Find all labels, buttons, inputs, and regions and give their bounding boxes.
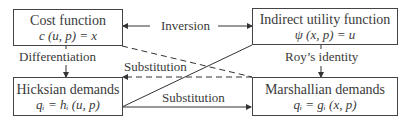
indirect-utility-box: Indirect utility function ψ (x, p) = u xyxy=(252,8,398,45)
marshallian-formula: qᵢ = gᵢ (x, p) xyxy=(293,97,356,112)
inversion-label: Inversion xyxy=(160,19,211,32)
marshallian-demands-box: Marshallian demands qᵢ = gᵢ (x, p) xyxy=(252,77,398,116)
differentiation-label: Differentiation xyxy=(18,50,97,63)
cost-function-box: Cost function c (u, p) = x xyxy=(13,9,123,46)
indirect-utility-title: Indirect utility function xyxy=(260,12,391,27)
substitution-dashed-label: Substitution xyxy=(123,60,188,73)
hicksian-demands-box: Hicksian demands qᵢ = hᵢ (u, p) xyxy=(13,77,123,116)
substitution-solid-label: Substitution xyxy=(161,91,226,104)
marshallian-title: Marshallian demands xyxy=(265,82,385,97)
hicksian-title: Hicksian demands xyxy=(16,82,119,97)
roys-identity-label: Roy’s identity xyxy=(284,50,359,63)
cost-function-title: Cost function xyxy=(30,13,106,28)
hicksian-formula: qᵢ = hᵢ (u, p) xyxy=(36,97,100,112)
cost-function-formula: c (u, p) = x xyxy=(39,28,97,43)
indirect-utility-formula: ψ (x, p) = u xyxy=(295,27,356,42)
